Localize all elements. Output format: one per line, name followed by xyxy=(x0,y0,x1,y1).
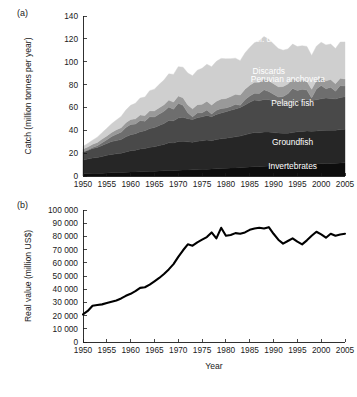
y-tick-label-b: 100 000 xyxy=(48,205,78,215)
x-tick-label-a: 1950 xyxy=(74,179,93,189)
x-tick-label-a: 2000 xyxy=(312,179,331,189)
series-annotation-groundfish: Groundfish xyxy=(272,137,313,147)
x-tick-label-a: 1960 xyxy=(121,179,140,189)
y-tick-label-b: 70 000 xyxy=(53,245,79,255)
y-tick-label-a: 140 xyxy=(64,11,78,21)
panel-b-x-axis-title: Year xyxy=(205,361,223,371)
series-annotation-pelagic-fish: Pelagic fish xyxy=(271,98,314,108)
panel-b-tag: (b) xyxy=(17,200,28,210)
y-tick-label-b: 80 000 xyxy=(53,231,79,241)
x-tick-label-b: 1985 xyxy=(240,345,259,355)
x-tick-label-a: 1955 xyxy=(98,179,117,189)
x-tick-label-b: 1965 xyxy=(145,345,164,355)
series-annotation-invertebrates: Invertebrates xyxy=(268,161,317,171)
catch-stacked-area-svg: 0204060801001201401950195519601965197019… xyxy=(0,0,357,196)
y-tick-label-b: 50 000 xyxy=(53,271,79,281)
series-annotation-iuu-excl-discards: IUU (excl. discards) xyxy=(227,34,300,44)
figure-container: (a) 020406080100120140195019551960196519… xyxy=(0,0,357,397)
x-tick-label-a: 1995 xyxy=(288,179,307,189)
x-tick-label-b: 1995 xyxy=(288,345,307,355)
y-tick-label-a: 80 xyxy=(69,80,79,90)
x-tick-label-b: 1975 xyxy=(193,345,212,355)
x-tick-label-b: 2005 xyxy=(336,345,355,355)
y-tick-label-a: 100 xyxy=(64,57,78,67)
x-tick-label-a: 1980 xyxy=(217,179,236,189)
y-tick-label-a: 120 xyxy=(64,34,78,44)
x-tick-label-b: 1970 xyxy=(169,345,188,355)
series-annotation-peruvian-anchoveta: Peruvian anchoveta xyxy=(251,74,325,84)
real-value-line-svg: 010 00020 00030 00040 00050 00060 00070 … xyxy=(0,196,357,397)
x-tick-label-b: 2000 xyxy=(312,345,331,355)
x-tick-label-a: 1970 xyxy=(169,179,188,189)
real-value-series-line xyxy=(83,227,345,314)
x-tick-label-b: 1960 xyxy=(121,345,140,355)
x-tick-label-a: 2005 xyxy=(336,179,355,189)
x-tick-label-a: 1975 xyxy=(193,179,212,189)
y-tick-label-b: 40 000 xyxy=(53,284,79,294)
y-tick-label-b: 10 000 xyxy=(53,324,79,334)
x-tick-label-b: 1980 xyxy=(217,345,236,355)
panel-a-catch-chart: (a) 020406080100120140195019551960196519… xyxy=(0,0,357,196)
panel-b-axes xyxy=(83,210,345,342)
panel-b-y-axis-title: Real value (million US$) xyxy=(23,230,33,322)
panel-a-y-axis-title: Catch (million tonnes per year) xyxy=(23,37,33,154)
x-tick-label-a: 1990 xyxy=(264,179,283,189)
y-tick-label-a: 40 xyxy=(69,125,79,135)
y-tick-label-b: 20 000 xyxy=(53,311,79,321)
y-tick-label-a: 20 xyxy=(69,148,79,158)
panel-b-value-chart: (b) 010 00020 00030 00040 00050 00060 00… xyxy=(0,196,357,397)
x-tick-label-b: 1955 xyxy=(98,345,117,355)
y-tick-label-b: 30 000 xyxy=(53,297,79,307)
x-tick-label-a: 1985 xyxy=(240,179,259,189)
x-tick-label-b: 1950 xyxy=(74,345,93,355)
y-tick-label-b: 60 000 xyxy=(53,258,79,268)
x-tick-label-a: 1965 xyxy=(145,179,164,189)
x-tick-label-b: 1990 xyxy=(264,345,283,355)
panel-a-tag: (a) xyxy=(17,8,28,18)
y-tick-label-b: 90 000 xyxy=(53,218,79,228)
y-tick-label-a: 60 xyxy=(69,102,79,112)
